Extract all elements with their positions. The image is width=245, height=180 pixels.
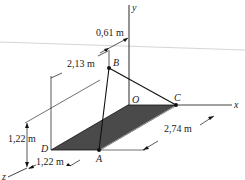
plate (51, 105, 177, 150)
point-a-label: A (95, 153, 103, 164)
dim-line-2-13-left (51, 73, 62, 78)
scan-artifact-line (0, 42, 245, 50)
arrowhead (25, 162, 29, 167)
x-axis-label: x (233, 99, 239, 110)
z-axis (8, 168, 27, 177)
statics-diagram: y x z B O C A D 0,61 m 2,13 m 1,22 m 1,2… (0, 0, 245, 180)
arrowhead (123, 38, 128, 42)
y-axis-label: y (131, 2, 137, 13)
dim-label-length: 2,74 m (164, 123, 192, 134)
point-b-dot (107, 66, 111, 70)
dim-label-0-61: 0,61 m (96, 27, 124, 38)
point-c-dot (174, 103, 178, 107)
dim-label-2-13: 2,13 m (67, 58, 95, 69)
arrowhead (28, 165, 34, 169)
point-d-label: D (40, 143, 49, 154)
point-b-label: B (113, 57, 119, 68)
arrowhead (66, 163, 71, 166)
z-axis-label: z (1, 171, 6, 180)
dim-line-da-right (70, 160, 80, 166)
point-o-label: O (132, 94, 139, 105)
point-c-label: C (174, 92, 181, 103)
arrowhead (25, 123, 29, 128)
dim-label-width: 1,22 m (36, 156, 64, 167)
dim-label-height: 1,22 m (8, 133, 36, 144)
cable-bc (109, 68, 176, 105)
b-projection-line (25, 80, 100, 123)
